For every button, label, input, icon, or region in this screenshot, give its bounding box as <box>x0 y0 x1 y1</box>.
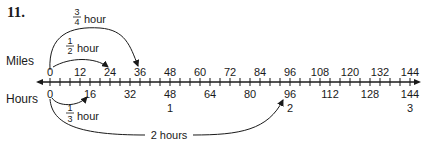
hours-tick-label: 112 <box>321 88 339 100</box>
svg-text:2: 2 <box>67 46 72 56</box>
axis-left-arrow-icon <box>36 79 43 85</box>
hours-tick-label: 96 <box>284 88 296 100</box>
hours-tick-label: 128 <box>361 88 379 100</box>
hours-hour-labels: 123 <box>167 102 413 114</box>
miles-tick-label: 24 <box>104 66 116 78</box>
axis <box>36 78 421 86</box>
miles-tick-label: 84 <box>254 66 266 78</box>
hours-tick-label: 48 <box>164 88 176 100</box>
hours-tick-labels: 0163248648096112128144 <box>47 88 419 100</box>
miles-tick-label: 36 <box>134 66 146 78</box>
svg-text:4: 4 <box>74 17 79 27</box>
svg-text:hour: hour <box>77 42 99 54</box>
hours-tick-label: 64 <box>204 88 216 100</box>
number-line-diagram: 11. Miles Hours 012243648607284961081201… <box>0 0 427 147</box>
svg-text:1: 1 <box>67 36 72 46</box>
number-line-svg: 01224364860728496108120132144 0163248648… <box>0 0 427 147</box>
hour-value-label: 1 <box>167 102 173 114</box>
hour-value-label: 2 <box>287 102 293 114</box>
miles-tick-label: 60 <box>194 66 206 78</box>
miles-tick-labels: 01224364860728496108120132144 <box>47 66 419 78</box>
miles-tick-label: 132 <box>371 66 389 78</box>
svg-text:hour: hour <box>77 110 99 122</box>
svg-text:1: 1 <box>67 103 72 113</box>
miles-tick-label: 144 <box>401 66 419 78</box>
svg-text:hour: hour <box>84 13 106 25</box>
hours-tick-label: 80 <box>244 88 256 100</box>
svg-text:3: 3 <box>67 114 72 124</box>
miles-tick-label: 72 <box>224 66 236 78</box>
miles-tick-label: 48 <box>164 66 176 78</box>
miles-tick-label: 12 <box>74 66 86 78</box>
hour-value-label: 3 <box>407 102 413 114</box>
arc-half-hour: 1 2 hour <box>53 36 108 67</box>
svg-text:3: 3 <box>74 7 79 17</box>
miles-tick-label: 120 <box>341 66 359 78</box>
arc-third-hour: 1 3 hour <box>52 97 99 124</box>
miles-tick-label: 108 <box>311 66 329 78</box>
axis-right-arrow-icon <box>414 79 421 85</box>
hours-tick-label: 144 <box>401 88 419 100</box>
miles-tick-label: 96 <box>284 66 296 78</box>
hours-tick-label: 32 <box>124 88 136 100</box>
svg-text:2 hours: 2 hours <box>151 129 188 141</box>
